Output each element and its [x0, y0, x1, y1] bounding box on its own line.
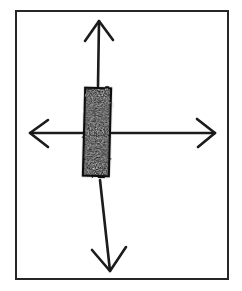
arrow-up-shaft — [98, 21, 99, 86]
figure-root: Hand-drawn diagram: vertical bar with fo… — [0, 0, 242, 291]
page-background — [0, 0, 242, 291]
central-vertical-bar-fill — [83, 88, 111, 177]
central-vertical-bar — [83, 88, 111, 177]
diagram-canvas — [0, 0, 242, 291]
